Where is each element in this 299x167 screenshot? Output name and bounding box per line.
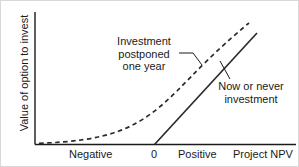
annotation-nowornever-line-2: investment [207,93,295,106]
y-axis-label: Value of option to invest [18,3,30,143]
chart-figure: Value of option to invest Negative 0 Pos… [0,0,299,167]
annotation-investment-postponed: Investment postponed one year [103,35,185,73]
x-tick-label-zero: 0 [151,148,157,160]
x-axis-title-project-npv: Project NPV [233,148,293,160]
annotation-postponed-line-1: Investment [103,35,185,48]
annotation-postponed-line-2: postponed [103,48,185,61]
x-tick-label-negative: Negative [69,148,112,160]
annotation-nowornever-line-1: Now or never [207,80,295,93]
x-tick-label-positive: Positive [178,148,217,160]
annotation-now-or-never: Now or never investment [207,80,295,105]
annotation-postponed-line-3: one year [103,60,185,73]
